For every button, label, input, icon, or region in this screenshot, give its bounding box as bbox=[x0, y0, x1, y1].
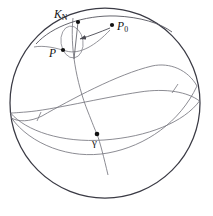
point-p0 bbox=[110, 23, 114, 27]
label-p-base: P bbox=[49, 47, 56, 59]
label-k-north-base: K bbox=[54, 8, 62, 20]
label-p-zero-subscript: 0 bbox=[124, 25, 128, 34]
sphere-drawing-canvas bbox=[0, 0, 213, 216]
sphere-outline-circle bbox=[10, 8, 200, 198]
arrow-p0-to-orbit bbox=[80, 28, 110, 39]
label-vernal-equinox: γ bbox=[92, 137, 97, 148]
label-p-zero-base: P bbox=[117, 20, 124, 32]
celestial-sphere-figure: KN P0 P γ bbox=[0, 0, 213, 216]
ecliptic-great-circle bbox=[12, 65, 198, 155]
label-p-zero: P0 bbox=[117, 21, 128, 34]
point-kn bbox=[76, 20, 80, 24]
label-k-north: KN bbox=[54, 9, 68, 22]
point-p bbox=[61, 48, 65, 52]
label-p: P bbox=[49, 48, 56, 60]
equator-great-circle bbox=[11, 90, 200, 140]
label-k-north-subscript: N bbox=[62, 13, 68, 22]
